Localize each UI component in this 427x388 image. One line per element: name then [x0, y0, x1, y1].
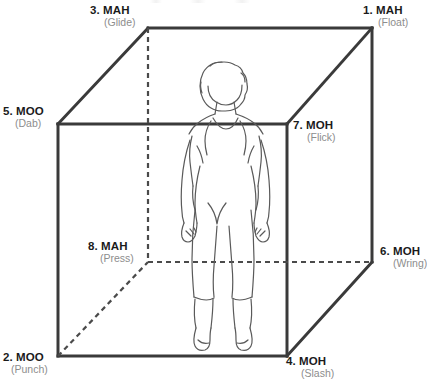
human-figure: [0, 0, 427, 388]
vertex-4-number: 4. MOH: [286, 355, 334, 368]
vertex-label-5: 5. MOO (Dab): [3, 105, 44, 130]
figure-heel-left: [198, 340, 209, 343]
figure-torso-left: [190, 136, 193, 186]
vertex-7-effort: (Flick): [293, 132, 336, 144]
figure-underarm-left: [197, 146, 203, 163]
figure-face: [208, 85, 242, 105]
diagram-canvas: 3. MAH (Glide) 1. MAH (Float) 5. MOO (Da…: [0, 0, 427, 388]
vertex-1-number: 1. MAH: [363, 4, 408, 17]
figure-hand-left: [182, 223, 197, 242]
figure-hand-left-fingers: [186, 228, 196, 236]
vertex-1-effort: (Float): [363, 17, 408, 29]
vertex-label-8: 8. MAH (Press): [88, 240, 134, 265]
vertex-label-3: 3. MAH (Glide): [90, 4, 136, 29]
vertex-7-number: 7. MOH: [293, 119, 336, 132]
vertex-2-number: 2. MOO: [3, 351, 48, 364]
vertex-5-effort: (Dab): [3, 118, 44, 130]
vertex-3-number: 3. MAH: [90, 4, 136, 17]
figure-hair-curl-1: [210, 62, 222, 66]
vertex-3-effort: (Glide): [90, 17, 136, 29]
figure-foot-right: [235, 328, 252, 350]
figure-calf-left-outer: [194, 299, 196, 328]
vertex-label-6: 6. MOH (Wring): [380, 245, 427, 270]
figure-leg-outer-left: [192, 210, 195, 297]
vertex-8-number: 8. MAH: [88, 240, 134, 253]
figure-arm-left-inner: [195, 166, 200, 223]
figure-heel-right: [237, 340, 248, 343]
figure-neck-left: [215, 102, 217, 114]
vertex-label-4: 4. MOH (Slash): [286, 355, 334, 380]
figure-hand-right-fingers: [255, 228, 265, 236]
figure-calf-right-inner: [233, 299, 235, 328]
figure-hand-right: [254, 223, 269, 242]
vertex-2-effort: (Punch): [3, 364, 48, 376]
figure-hair: [200, 62, 247, 111]
figure-cuff-right: [232, 297, 252, 300]
figure-shoulder-left: [189, 114, 215, 134]
vertex-label-7: 7. MOH (Flick): [293, 119, 336, 144]
figure-cuff-left: [194, 297, 214, 300]
figure-shoulder-right: [236, 114, 263, 134]
figure-arm-left-outer: [181, 140, 190, 223]
vertex-6-number: 6. MOH: [380, 245, 427, 258]
figure-underarm-right: [248, 146, 254, 163]
vertex-8-effort: (Press): [88, 253, 134, 265]
figure-foot-left: [194, 328, 211, 350]
vertex-label-1: 1. MAH (Float): [363, 4, 408, 29]
vertex-5-number: 5. MOO: [3, 105, 44, 118]
figure-crotch: [208, 203, 226, 224]
figure-leg-inner-left: [213, 226, 217, 297]
figure-torso-right: [258, 136, 261, 186]
figure-collar: [213, 118, 238, 129]
vertex-6-effort: (Wring): [380, 258, 427, 270]
figure-strap-right: [240, 121, 246, 155]
figure-calf-left-inner: [211, 299, 213, 328]
vertex-label-2: 2. MOO (Punch): [3, 351, 48, 376]
figure-arm-right-outer: [261, 140, 270, 223]
figure-calf-right-outer: [250, 299, 252, 328]
figure-strap-left: [205, 121, 211, 155]
vertex-4-effort: (Slash): [286, 368, 334, 380]
figure-leg-inner-right: [229, 226, 233, 297]
